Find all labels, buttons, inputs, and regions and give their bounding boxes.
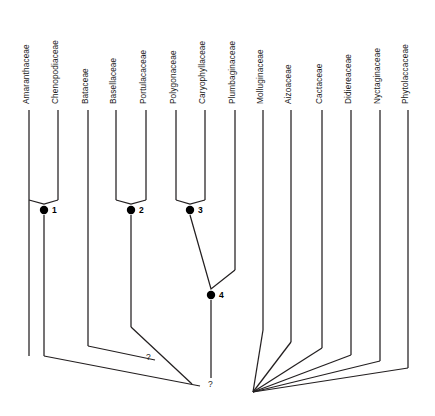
taxon-label-nyctaginaceae: Nyctaginaceae	[373, 48, 382, 104]
taxon-label-chenopodiaceae: Chenopodiaceae	[51, 40, 60, 104]
unknown-right: ?	[208, 379, 213, 389]
taxon-label-aizoaceae: Aizoaceae	[284, 64, 293, 104]
node-number-node-4: 4	[219, 290, 224, 300]
node-number-node-3: 3	[198, 205, 203, 215]
taxon-label-plumbaginaceae: Plumbaginaceae	[228, 41, 237, 104]
node-number-node-1: 1	[52, 205, 57, 215]
cladogram-figure: AmaranthaceaeChenopodiaceaeBataceaeBasel…	[0, 0, 435, 416]
taxon-label-cactaceae: Cactaceae	[315, 63, 324, 104]
unknown-left: ?	[146, 352, 151, 362]
node-dot-node-1	[40, 206, 48, 214]
taxon-label-didiereaceae: Didiereaceae	[344, 54, 353, 104]
phylogenetic-tree-canvas: AmaranthaceaeChenopodiaceaeBataceaeBasel…	[0, 0, 435, 416]
figure-background	[0, 0, 435, 416]
node-dot-node-4	[207, 291, 215, 299]
node-dot-node-2	[127, 206, 135, 214]
taxon-label-portulacaceae: Portulacaceae	[139, 49, 148, 104]
taxon-label-polygonaceae: Polygonaceae	[169, 50, 178, 104]
taxon-label-basellaceae: Basellaceae	[109, 57, 118, 104]
taxon-label-molluginaceae: Molluginaceae	[256, 49, 265, 104]
taxon-label-bataceae: Bataceae	[81, 68, 90, 104]
node-dot-node-3	[186, 206, 194, 214]
taxon-label-caryophyllaceae: Caryophyllaceae	[198, 40, 207, 104]
taxon-label-amaranthaceae: Amaranthaceae	[22, 44, 31, 104]
node-number-node-2: 2	[139, 205, 144, 215]
taxon-label-phytolaccaceae: Phytolaccaceae	[401, 44, 410, 104]
